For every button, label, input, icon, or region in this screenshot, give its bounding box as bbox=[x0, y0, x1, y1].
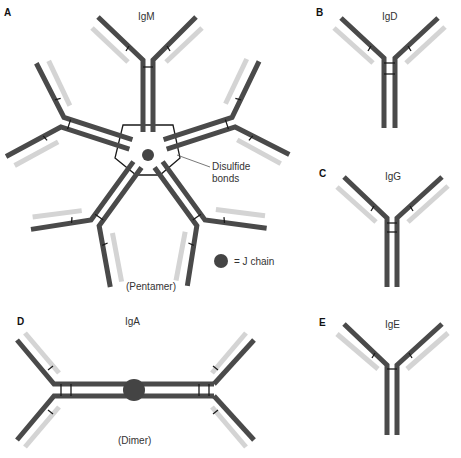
iga-title: IgA bbox=[125, 316, 140, 327]
iga-form-label: (Dimer) bbox=[118, 435, 151, 446]
panel-b-igd: B IgD bbox=[316, 7, 445, 128]
igm-form-label: (Pentamer) bbox=[126, 281, 176, 292]
ige-title: IgE bbox=[385, 319, 400, 330]
iga-j-chain bbox=[123, 379, 145, 401]
disulfide-label-line2: bonds bbox=[212, 173, 239, 184]
jchain-legend-label: = J chain bbox=[234, 256, 274, 267]
panel-letter-d: D bbox=[17, 316, 24, 327]
igd-title: IgD bbox=[382, 11, 398, 22]
immunoglobulin-diagram: A IgM bbox=[0, 0, 461, 458]
disulfide-label-line1: Disulfide bbox=[212, 161, 251, 172]
igg-molecule bbox=[337, 177, 448, 287]
ige-molecule bbox=[337, 324, 448, 435]
igd-molecule bbox=[334, 18, 445, 128]
panel-c-igg: C IgG bbox=[319, 168, 448, 287]
igm-monomer-4 bbox=[26, 133, 183, 291]
disulfide-leader-line bbox=[177, 155, 210, 167]
igm-title: IgM bbox=[138, 11, 155, 22]
panel-e-ige: E IgE bbox=[319, 317, 448, 435]
igm-monomer-1 bbox=[92, 17, 202, 132]
panel-d-iga: D IgA (Dimer) bbox=[17, 316, 254, 447]
panel-letter-c: C bbox=[319, 168, 326, 179]
panel-letter-e: E bbox=[319, 317, 326, 328]
igm-j-chain bbox=[142, 149, 154, 161]
jchain-legend-icon bbox=[214, 254, 228, 268]
panel-a-igm: A IgM bbox=[4, 7, 291, 292]
igg-title: IgG bbox=[385, 171, 401, 182]
panel-letter-b: B bbox=[316, 7, 323, 18]
igm-monomer-5 bbox=[4, 58, 147, 198]
panel-letter-a: A bbox=[4, 7, 11, 18]
